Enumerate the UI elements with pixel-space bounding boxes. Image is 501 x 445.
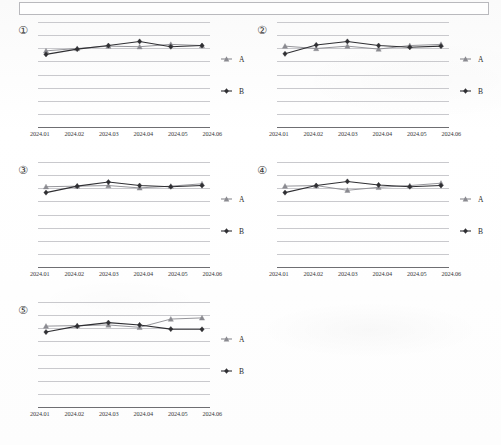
- x-axis-labels-3: 2024.012024.022024.032024.042024.052024.…: [30, 270, 222, 277]
- legend-item-B[interactable]: B: [460, 226, 494, 236]
- triangle-marker-icon: [221, 194, 235, 204]
- chart-index-label-3: ③: [16, 164, 30, 178]
- x-tick-label: 2024.06: [442, 270, 461, 277]
- top-header-box: [19, 2, 489, 15]
- chart-index-label-5: ⑤: [16, 304, 30, 318]
- diamond-marker-icon: [460, 226, 474, 236]
- chart-index-label-1: ①: [16, 24, 30, 38]
- x-tick-label: 2024.03: [99, 410, 118, 417]
- legend-label-B: B: [239, 227, 244, 236]
- x-tick-label: 2024.05: [168, 130, 187, 137]
- x-tick-label: 2024.02: [65, 270, 84, 277]
- diamond-marker-icon: [314, 42, 318, 47]
- x-tick-label: 2024.04: [134, 130, 153, 137]
- series-line-B: [46, 323, 202, 332]
- chart-panel-2: ②2024.012024.022024.032024.042024.052024…: [255, 18, 492, 158]
- legend-label-B: B: [478, 227, 483, 236]
- x-tick-label: 2024.05: [168, 410, 187, 417]
- diamond-marker-icon: [345, 179, 349, 184]
- plot-area-1: [38, 22, 210, 128]
- x-tick-label: 2024.05: [407, 130, 426, 137]
- x-tick-label: 2024.02: [304, 130, 323, 137]
- x-tick-label: 2024.02: [304, 270, 323, 277]
- triangle-marker-icon: [460, 54, 474, 64]
- chart-legend-4: AB: [460, 194, 494, 258]
- diamond-marker-icon: [283, 51, 287, 56]
- series-layer-5: [38, 302, 210, 408]
- legend-item-A[interactable]: A: [221, 194, 255, 204]
- x-axis-labels-4: 2024.012024.022024.032024.042024.052024.…: [269, 270, 461, 277]
- x-tick-label: 2024.03: [99, 270, 118, 277]
- legend-item-A[interactable]: A: [460, 194, 494, 204]
- diamond-marker-icon: [408, 184, 412, 189]
- chart-index-label-4: ④: [255, 164, 269, 178]
- x-tick-label: 2024.02: [65, 130, 84, 137]
- x-tick-label: 2024.03: [338, 270, 357, 277]
- diamond-marker-icon: [106, 320, 110, 325]
- series-line-B: [46, 41, 202, 54]
- chart-legend-5: AB: [221, 334, 255, 398]
- x-tick-label: 2024.02: [65, 410, 84, 417]
- diamond-marker-icon: [460, 86, 474, 96]
- x-tick-label: 2024.01: [269, 130, 288, 137]
- legend-item-A[interactable]: A: [460, 54, 494, 64]
- x-tick-label: 2024.04: [373, 130, 392, 137]
- document-page: ①2024.012024.022024.032024.042024.052024…: [0, 0, 501, 445]
- x-tick-label: 2024.04: [373, 270, 392, 277]
- diamond-marker-icon: [345, 39, 349, 44]
- x-tick-label: 2024.03: [99, 130, 118, 137]
- legend-item-B[interactable]: B: [221, 226, 255, 236]
- series-line-B: [46, 182, 202, 193]
- x-tick-label: 2024.04: [134, 410, 153, 417]
- x-tick-label: 2024.05: [407, 270, 426, 277]
- legend-item-A[interactable]: A: [221, 334, 255, 344]
- x-tick-label: 2024.01: [269, 270, 288, 277]
- x-tick-label: 2024.01: [30, 410, 49, 417]
- chart-panel-1: ①2024.012024.022024.032024.042024.052024…: [16, 18, 253, 158]
- plot-area-4: [277, 162, 449, 268]
- legend-item-A[interactable]: A: [221, 54, 255, 64]
- diamond-marker-icon: [283, 190, 287, 195]
- diamond-marker-icon: [221, 366, 235, 376]
- legend-label-B: B: [239, 367, 244, 376]
- chart-legend-1: AB: [221, 54, 255, 118]
- x-tick-label: 2024.01: [30, 130, 49, 137]
- legend-label-A: A: [239, 335, 244, 344]
- legend-label-A: A: [478, 55, 483, 64]
- x-tick-label: 2024.06: [203, 410, 222, 417]
- diamond-marker-icon: [44, 190, 48, 195]
- series-layer-2: [277, 22, 449, 128]
- chart-panel-3: ③2024.012024.022024.032024.042024.052024…: [16, 158, 253, 298]
- x-tick-label: 2024.06: [203, 130, 222, 137]
- x-axis-labels-5: 2024.012024.022024.032024.042024.052024.…: [30, 410, 222, 417]
- x-tick-label: 2024.06: [442, 130, 461, 137]
- legend-label-B: B: [478, 87, 483, 96]
- triangle-marker-icon: [221, 54, 235, 64]
- diamond-marker-icon: [376, 43, 380, 48]
- legend-item-B[interactable]: B: [221, 366, 255, 376]
- legend-label-A: A: [239, 195, 244, 204]
- legend-item-B[interactable]: B: [460, 86, 494, 96]
- plot-area-2: [277, 22, 449, 128]
- diamond-marker-icon: [200, 327, 204, 332]
- chart-legend-2: AB: [460, 54, 494, 118]
- chart-index-label-2: ②: [255, 24, 269, 38]
- chart-panel-4: ④2024.012024.022024.032024.042024.052024…: [255, 158, 492, 298]
- series-line-B: [285, 181, 441, 192]
- x-axis-labels-2: 2024.012024.022024.032024.042024.052024.…: [269, 130, 461, 137]
- plot-area-3: [38, 162, 210, 268]
- legend-label-A: A: [239, 55, 244, 64]
- x-tick-label: 2024.04: [134, 270, 153, 277]
- legend-item-B[interactable]: B: [221, 86, 255, 96]
- legend-label-A: A: [478, 195, 483, 204]
- chart-legend-3: AB: [221, 194, 255, 258]
- legend-label-B: B: [239, 87, 244, 96]
- x-tick-label: 2024.03: [338, 130, 357, 137]
- diamond-marker-icon: [221, 86, 235, 96]
- diamond-marker-icon: [221, 226, 235, 236]
- diamond-marker-icon: [137, 39, 141, 44]
- chart-panel-5: ⑤2024.012024.022024.032024.042024.052024…: [16, 298, 253, 438]
- diamond-marker-icon: [169, 326, 173, 331]
- diamond-marker-icon: [44, 329, 48, 334]
- diamond-marker-icon: [106, 179, 110, 184]
